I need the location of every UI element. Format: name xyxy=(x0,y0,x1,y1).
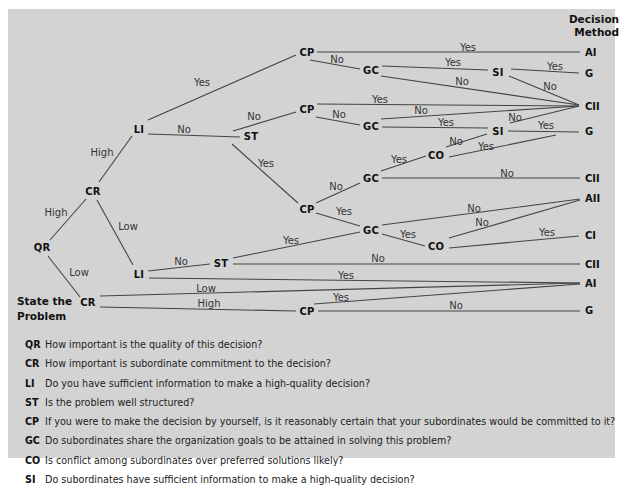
node-gc4: GC xyxy=(363,225,379,236)
node-gc3: GC xyxy=(363,173,379,184)
edge-label: No xyxy=(500,168,514,179)
edge-label: No xyxy=(543,81,557,92)
legend-item: QR How important is the quality of this … xyxy=(25,335,615,354)
edge-label: No xyxy=(329,181,343,192)
edge-label: Yes xyxy=(539,227,555,238)
edge-label: No xyxy=(371,253,385,264)
edge-label: Low xyxy=(196,283,216,294)
question-legend: QR How important is the quality of this … xyxy=(25,335,615,489)
decision-outcome: G xyxy=(585,305,593,316)
legend-item: CP If you were to make the decision by y… xyxy=(25,412,615,431)
edge-label: Low xyxy=(69,267,89,278)
header-line-1: Decision xyxy=(569,13,619,26)
state-the-problem-label: State the Problem xyxy=(17,294,72,324)
node-st1: ST xyxy=(244,131,258,142)
node-si2: SI xyxy=(492,126,503,137)
edge-label: No xyxy=(414,105,428,116)
node-st2: ST xyxy=(214,258,228,269)
node-cp4: CP xyxy=(299,306,314,317)
decision-outcome: G xyxy=(585,126,593,137)
legend-code: CP xyxy=(25,412,42,431)
legend-text: Do you have sufficient information to ma… xyxy=(45,378,370,389)
tree-edge xyxy=(232,144,298,203)
tree-edge xyxy=(382,127,488,128)
edge-label: High xyxy=(45,207,68,218)
edge-label: Yes xyxy=(372,94,388,105)
node-li2: LI xyxy=(134,269,145,280)
node-li1: LI xyxy=(134,124,145,135)
edge-label: Yes xyxy=(438,117,454,128)
legend-code: GC xyxy=(25,431,42,450)
node-cr2: CR xyxy=(80,297,95,308)
legend-item: CO Is conflict among subordinates over p… xyxy=(25,451,615,470)
edge-label: No xyxy=(174,256,188,267)
node-cp1: CP xyxy=(299,47,314,58)
edge-label: Yes xyxy=(194,77,210,88)
edge-label: Yes xyxy=(547,61,563,72)
node-cp2: CP xyxy=(299,104,314,115)
legend-item: ST Is the problem well structured? xyxy=(25,393,615,412)
decision-outcome: CII xyxy=(585,259,600,270)
legend-item: CR How important is subordinate commitme… xyxy=(25,354,615,373)
edge-label: No xyxy=(508,112,522,123)
edge-label: No xyxy=(247,111,261,122)
tree-edge xyxy=(99,136,132,182)
legend-text: Is the problem well structured? xyxy=(45,397,194,408)
decision-outcome: CII xyxy=(585,101,600,112)
edge-label: Yes xyxy=(258,158,274,169)
tree-edge xyxy=(148,55,296,120)
legend-item: LI Do you have sufficient information to… xyxy=(25,374,615,393)
tree-edge xyxy=(148,134,240,137)
edge-label: Yes xyxy=(445,57,461,68)
node-si1: SI xyxy=(492,67,503,78)
tree-edge xyxy=(317,104,579,106)
edge-label: No xyxy=(332,109,346,120)
edge-label: Yes xyxy=(460,42,476,53)
edge-label: Yes xyxy=(338,270,354,281)
legend-text: If you were to make the decision by your… xyxy=(45,416,615,427)
start-line-1: State the xyxy=(17,294,72,309)
decision-outcome: AI xyxy=(585,278,596,289)
edge-label: No xyxy=(330,54,344,65)
legend-code: ST xyxy=(25,393,42,412)
tree-edge xyxy=(382,66,488,70)
tree-edge xyxy=(449,236,579,248)
decision-outcome: AII xyxy=(585,193,600,204)
tree-edge xyxy=(449,135,556,157)
legend-code: LI xyxy=(25,374,42,393)
decision-outcome: CI xyxy=(585,230,596,241)
node-co1: CO xyxy=(428,150,444,161)
node-co2: CO xyxy=(428,241,444,252)
legend-text: Do subordinates have sufficient informat… xyxy=(45,474,415,485)
edge-label: Yes xyxy=(391,154,407,165)
legend-code: QR xyxy=(25,335,42,354)
edge-label: Yes xyxy=(538,120,554,131)
edge-label: No xyxy=(467,203,481,214)
legend-text: How important is subordinate commitment … xyxy=(45,358,331,369)
decision-outcome: G xyxy=(585,68,593,79)
edge-label: Yes xyxy=(400,229,416,240)
start-line-2: Problem xyxy=(17,309,72,324)
tree-edge xyxy=(233,112,296,131)
edge-label: Low xyxy=(118,221,138,232)
node-gc1: GC xyxy=(363,65,379,76)
edge-label: Yes xyxy=(333,292,349,303)
edge-label: No xyxy=(449,300,463,311)
edge-label: No xyxy=(449,136,463,147)
edge-label: No xyxy=(177,124,191,135)
tree-edge xyxy=(381,106,579,119)
legend-code: CO xyxy=(25,451,42,470)
edge-label: Yes xyxy=(336,206,352,217)
decision-method-header: Decision Method xyxy=(569,13,619,39)
legend-text: Is conflict among subordinates over pref… xyxy=(45,455,343,466)
tree-edge xyxy=(50,199,86,240)
legend-text: Do subordinates share the organization g… xyxy=(45,435,451,446)
legend-code: SI xyxy=(25,470,42,489)
node-cr1: CR xyxy=(85,186,100,197)
tree-edge xyxy=(508,131,579,132)
node-gc2: GC xyxy=(363,121,379,132)
tree-edge xyxy=(97,200,133,265)
edge-label: No xyxy=(455,76,469,87)
edge-label: Yes xyxy=(283,235,299,246)
tree-edge xyxy=(511,69,579,73)
